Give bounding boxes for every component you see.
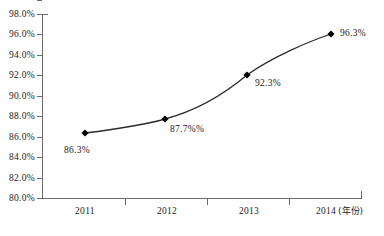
data-label-2014: 96.3% bbox=[340, 28, 366, 38]
y-axis-label: 86.0% bbox=[0, 132, 35, 142]
x-axis-title: (年份) bbox=[338, 205, 363, 217]
y-axis-label: 80.0% bbox=[0, 193, 35, 203]
y-axis-tick bbox=[37, 137, 42, 138]
x-axis-tick bbox=[125, 198, 126, 205]
x-axis-label-2013: 2013 bbox=[223, 205, 275, 217]
data-label-2013: 92.3% bbox=[255, 78, 281, 88]
y-axis-tick bbox=[37, 14, 42, 15]
data-label-2012: 87.7%% bbox=[170, 124, 204, 134]
series-line-group bbox=[0, 0, 384, 236]
x-axis-tick bbox=[207, 198, 208, 205]
y-axis-label: 90.0% bbox=[0, 91, 35, 101]
y-axis-label: 96.0% bbox=[0, 29, 35, 39]
y-axis-tick bbox=[37, 116, 42, 117]
y-axis-tick bbox=[37, 55, 42, 56]
x-axis-tick bbox=[289, 198, 290, 205]
y-axis-label: 92.0% bbox=[0, 70, 35, 80]
series-line bbox=[85, 34, 331, 133]
y-axis-tick bbox=[37, 198, 42, 199]
y-axis-tick bbox=[37, 96, 42, 97]
y-axis-label: 94.0% bbox=[0, 50, 35, 60]
y-axis-tick bbox=[37, 75, 42, 76]
x-axis-line bbox=[42, 198, 362, 199]
y-axis-tick bbox=[37, 178, 42, 179]
y-axis-top-cap bbox=[42, 14, 48, 15]
data-point-marker-2013 bbox=[243, 71, 250, 78]
data-point-marker-2012 bbox=[161, 115, 168, 122]
y-axis-label: 84.0% bbox=[0, 152, 35, 162]
y-axis-tick bbox=[37, 34, 42, 35]
y-axis-line bbox=[42, 14, 43, 199]
data-point-marker-2014 bbox=[327, 30, 334, 37]
y-axis-label: 82.0% bbox=[0, 173, 35, 183]
y-axis-label: 98.0% bbox=[0, 9, 35, 19]
x-axis-label-2011: 2011 bbox=[59, 205, 111, 217]
x-axis-end-cap bbox=[361, 191, 362, 199]
line-chart: 98.0% 96.0% 94.0% 92.0% 90.0% 88.0% 86.0… bbox=[0, 0, 384, 236]
data-point-marker-2011 bbox=[81, 129, 88, 136]
data-label-2011: 86.3% bbox=[64, 145, 90, 155]
y-axis-tick bbox=[37, 0, 42, 1]
y-axis-tick bbox=[37, 157, 42, 158]
y-axis-label: 88.0% bbox=[0, 111, 35, 121]
x-axis-label-2012: 2012 bbox=[141, 205, 193, 217]
